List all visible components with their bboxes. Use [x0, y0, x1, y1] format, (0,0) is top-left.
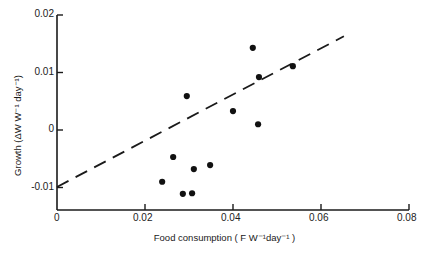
- data-point: [184, 93, 190, 99]
- y-ticks: [57, 15, 63, 188]
- x-tick-label: 0.06: [309, 212, 328, 223]
- data-point: [290, 63, 296, 69]
- data-point: [189, 190, 195, 196]
- x-tick-label: 0: [54, 212, 60, 223]
- x-tick-label: 0.02: [133, 212, 152, 223]
- y-axis-label: Growth (ΔW W⁻¹ day⁻¹): [12, 61, 23, 191]
- data-point: [250, 45, 256, 51]
- dashed-regression-line: [57, 36, 344, 187]
- x-axis-label: Food consumption ( F W⁻¹day⁻¹ ): [0, 232, 429, 243]
- y-tick-label: 0.02: [35, 8, 54, 19]
- y-tick-label: 0: [48, 123, 54, 134]
- x-tick-label: 0.04: [221, 212, 240, 223]
- data-point: [207, 162, 213, 168]
- scatter-chart: [0, 0, 429, 258]
- data-point: [230, 108, 236, 114]
- data-point: [170, 154, 176, 160]
- data-point: [180, 191, 186, 197]
- x-tick-label: 0.08: [397, 212, 416, 223]
- x-ticks: [145, 204, 409, 210]
- data-point: [191, 166, 197, 172]
- data-point: [256, 74, 262, 80]
- y-tick-label: -0.01: [31, 181, 54, 192]
- data-points: [159, 45, 296, 197]
- y-tick-label: 0.01: [35, 66, 54, 77]
- data-point: [255, 121, 261, 127]
- data-point: [159, 179, 165, 185]
- regression-line: [57, 36, 344, 187]
